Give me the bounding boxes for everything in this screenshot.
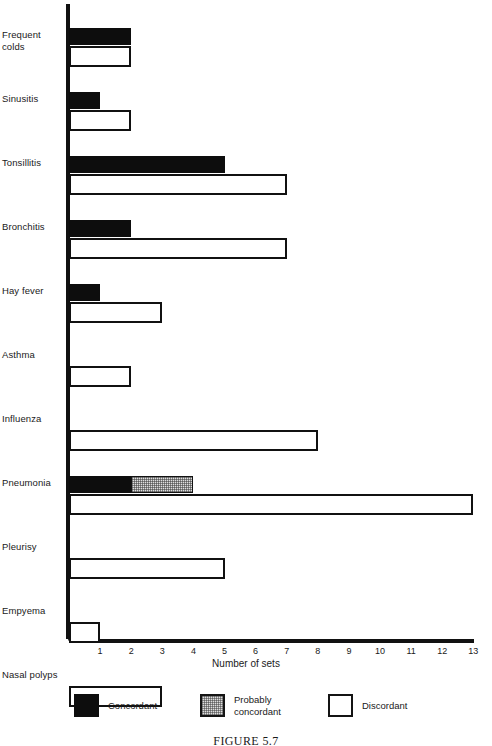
category-label: Nasal polyps — [2, 669, 64, 681]
category-label: Pleurisy — [2, 541, 64, 553]
category-label: Hay fever — [2, 285, 64, 297]
category-label: Frequent colds — [2, 29, 64, 52]
category-label: Influenza — [2, 413, 64, 425]
bar-discordant — [69, 302, 162, 323]
legend-label: Probably concordant — [234, 694, 281, 717]
legend-item-concordant: Concordant — [74, 694, 157, 717]
x-tick-label: 1 — [90, 646, 110, 656]
bar-discordant — [69, 46, 131, 67]
bar-discordant — [69, 110, 131, 131]
bar-concordant — [69, 476, 131, 493]
x-tick-label: 3 — [152, 646, 172, 656]
x-tick-label: 5 — [215, 646, 235, 656]
category-label: Pneumonia — [2, 477, 64, 489]
category-label: Bronchitis — [2, 221, 64, 233]
bar-discordant — [69, 622, 100, 643]
x-tick-label: 2 — [121, 646, 141, 656]
legend-label: Concordant — [108, 700, 157, 712]
bar-concordant — [69, 220, 131, 237]
bar-discordant — [69, 430, 318, 451]
bar-chart-plot: Frequent coldsSinusitisTonsillitisBronch… — [0, 0, 492, 660]
x-tick-label: 6 — [246, 646, 266, 656]
category-label: Tonsillitis — [2, 157, 64, 169]
bar-discordant — [69, 174, 287, 195]
legend-item-discordant: Discordant — [328, 694, 407, 717]
x-tick-label: 9 — [339, 646, 359, 656]
legend-item-probable: Probably concordant — [200, 694, 281, 717]
x-tick-label: 10 — [370, 646, 390, 656]
legend-swatch-concordant — [74, 694, 99, 717]
category-label: Asthma — [2, 349, 64, 361]
figure-5-7: Frequent coldsSinusitisTonsillitisBronch… — [0, 0, 492, 746]
bar-discordant — [69, 238, 287, 259]
legend-swatch-discordant — [328, 694, 353, 717]
x-tick-label: 12 — [432, 646, 452, 656]
bar-concordant — [69, 92, 100, 109]
category-label: Empyema — [2, 605, 64, 617]
chart-legend: ConcordantProbably concordantDiscordant — [0, 694, 492, 734]
x-tick-label: 7 — [277, 646, 297, 656]
figure-caption: FIGURE 5.7 — [0, 734, 492, 746]
category-label: Sinusitis — [2, 93, 64, 105]
bar-concordant — [69, 28, 131, 45]
x-axis-line — [69, 639, 474, 643]
bar-probably-concordant — [131, 476, 193, 493]
x-tick-label: 4 — [183, 646, 203, 656]
legend-label: Discordant — [362, 700, 407, 712]
x-tick-label: 13 — [463, 646, 483, 656]
bar-discordant — [69, 494, 473, 515]
bar-concordant — [69, 156, 225, 173]
x-tick-label: 11 — [401, 646, 421, 656]
x-axis-title: Number of sets — [0, 658, 492, 669]
legend-swatch-probable — [200, 694, 225, 717]
bar-concordant — [69, 284, 100, 301]
bar-discordant — [69, 558, 225, 579]
x-tick-label: 8 — [308, 646, 328, 656]
bar-discordant — [69, 366, 131, 387]
